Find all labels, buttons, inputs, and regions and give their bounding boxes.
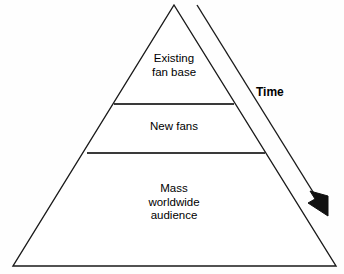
pyramid-diagram-graphic [0, 0, 344, 274]
time-axis-label: Time [256, 85, 284, 99]
pyramid-diagram-canvas: Existing fan base New fans Mass worldwid… [0, 0, 344, 274]
pyramid-outline [13, 5, 336, 266]
time-arrow-head-icon [308, 191, 328, 216]
pyramid-tier-label-middle: New fans [117, 120, 231, 134]
pyramid-tier-label-top: Existing fan base [117, 52, 231, 79]
pyramid-tier-label-bottom: Mass worldwide audience [110, 182, 238, 223]
